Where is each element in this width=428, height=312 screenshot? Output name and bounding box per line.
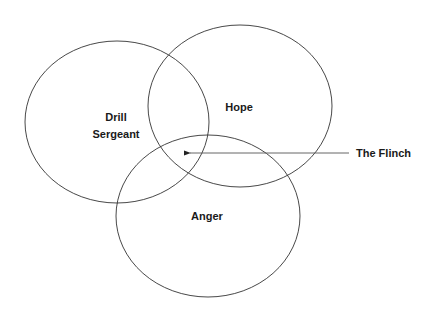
the-flinch-label: The Flinch: [356, 147, 411, 159]
hope-label: Hope: [225, 101, 253, 113]
drill-sergeant-label-line2: Sergeant: [92, 128, 139, 140]
drill-sergeant-label-line1: Drill: [105, 111, 126, 123]
venn-diagram: Drill Sergeant Hope Anger The Flinch: [0, 0, 428, 312]
anger-label: Anger: [191, 210, 224, 222]
